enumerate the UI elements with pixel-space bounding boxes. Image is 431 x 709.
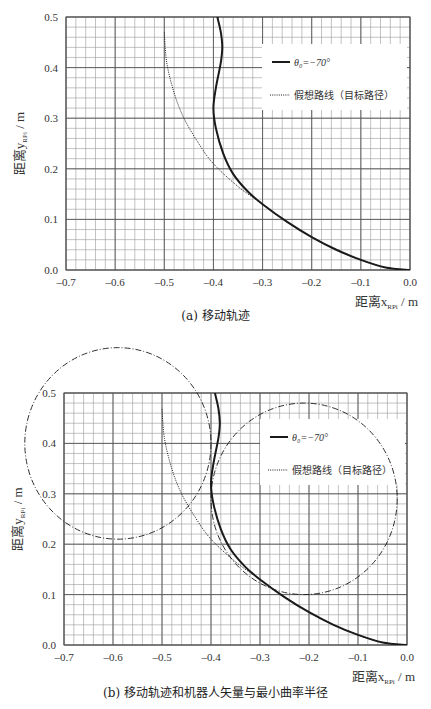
legend-solid-label: θ₀=−70°	[292, 432, 328, 443]
x-tick-label: –0.7	[55, 276, 76, 288]
y-tick-label: 0.4	[44, 62, 58, 74]
y-tick-label: 0.3	[44, 112, 58, 124]
y-tick-label: 0.0	[44, 264, 58, 276]
x-tick-label: 0.0	[400, 651, 414, 663]
x-tick-label: –0.4	[200, 651, 221, 663]
figure-b-caption: (b) 移动轨迹和机器人矢量与最小曲率半径	[0, 683, 431, 700]
x-tick-label: –0.6	[102, 651, 123, 663]
chart-a-plot: –0.7–0.6–0.5–0.4–0.3–0.2–0.10.00.00.10.2…	[0, 0, 431, 330]
x-tick-label: –0.4	[203, 276, 224, 288]
y-tick-label: 0.0	[42, 639, 56, 651]
x-tick-label: –0.2	[298, 651, 318, 663]
x-tick-label: –0.5	[151, 651, 172, 663]
figure-a-caption: (a) 移动轨迹	[0, 306, 431, 323]
y-axis-label: 距离yRPi / m	[12, 112, 29, 175]
x-tick-label: –0.2	[301, 276, 321, 288]
x-tick-label: –0.3	[252, 276, 273, 288]
y-tick-label: 0.5	[44, 11, 58, 23]
x-tick-label: 0.0	[403, 276, 417, 288]
y-tick-label: 0.3	[42, 488, 56, 500]
y-tick-label: 0.4	[42, 437, 56, 449]
figure-b: –0.7–0.6–0.5–0.4–0.3–0.2–0.10.00.00.10.2…	[0, 330, 431, 709]
figure-a: –0.7–0.6–0.5–0.4–0.3–0.2–0.10.00.00.10.2…	[0, 0, 431, 330]
legend-solid-label: θ₀=−70°	[294, 57, 330, 68]
y-tick-label: 0.1	[42, 589, 56, 601]
x-tick-label: –0.1	[347, 651, 367, 663]
y-tick-label: 0.2	[42, 538, 56, 550]
legend-dotted-label: 假想路线（目标路径）	[294, 89, 394, 101]
x-tick-label: –0.1	[350, 276, 370, 288]
chart-b-legend: θ₀=−70°假想路线（目标路径）	[260, 419, 405, 485]
y-axis-label: 距离yRPi / m	[10, 487, 27, 550]
x-tick-label: –0.3	[249, 651, 270, 663]
x-tick-label: –0.6	[105, 276, 126, 288]
x-tick-label: –0.7	[53, 651, 74, 663]
y-tick-label: 0.1	[44, 213, 58, 225]
y-tick-label: 0.2	[44, 163, 58, 175]
chart-a-legend: θ₀=−70°假想路线（目标路径）	[262, 44, 407, 110]
y-tick-label: 0.5	[42, 387, 56, 399]
chart-b-series	[25, 348, 407, 645]
chart-b-plot: –0.7–0.6–0.5–0.4–0.3–0.2–0.10.00.00.10.2…	[0, 330, 431, 709]
legend-dotted-label: 假想路线（目标路径）	[292, 464, 392, 476]
x-tick-label: –0.5	[154, 276, 175, 288]
